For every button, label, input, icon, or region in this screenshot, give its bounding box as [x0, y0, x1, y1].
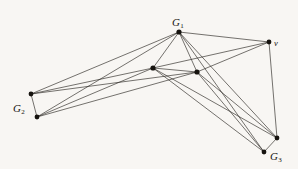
vertex-label-text: v: [274, 38, 278, 48]
graph-vertex: [176, 29, 181, 34]
vertex-label-G3: G3: [270, 147, 282, 164]
graph-vertex: [275, 136, 280, 141]
graph-vertex: [29, 92, 34, 97]
graph-figure: G1vG2G3: [0, 0, 298, 169]
vertex-label-text: G: [270, 150, 278, 162]
vertex-label-G2: G2: [13, 99, 25, 116]
graph-vertex: [262, 150, 267, 155]
vertex-label-subscript: 2: [21, 108, 25, 116]
graph-canvas: [0, 0, 298, 169]
vertex-label-v: v: [274, 33, 278, 49]
vertex-label-subscript: 1: [180, 22, 184, 30]
graph-vertex: [194, 69, 199, 74]
graph-vertex: [35, 115, 40, 120]
vertex-label-text: G: [172, 16, 180, 28]
vertex-label-text: G: [13, 102, 21, 114]
graph-vertex: [267, 40, 272, 45]
graph-vertex: [150, 65, 155, 70]
vertex-label-G1: G1: [172, 13, 184, 30]
vertex-label-subscript: 3: [278, 156, 282, 164]
